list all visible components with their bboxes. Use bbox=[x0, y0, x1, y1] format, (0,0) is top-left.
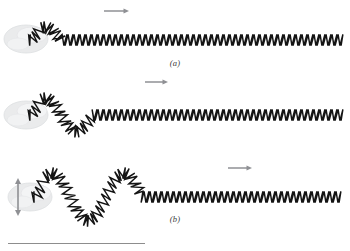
arrow-head bbox=[124, 8, 130, 13]
hand bbox=[4, 25, 48, 53]
panel-c: (c) bbox=[0, 155, 350, 235]
propagation-arrow bbox=[104, 8, 129, 13]
spring-coil-path bbox=[29, 21, 343, 45]
panel-b-illustration bbox=[0, 78, 350, 155]
hand bbox=[8, 183, 52, 211]
arrow-head-up bbox=[15, 178, 21, 184]
arrow-head bbox=[247, 165, 253, 170]
panel-a-label: (a) bbox=[155, 58, 195, 68]
hand-thumb bbox=[11, 196, 33, 208]
spring-coil-path bbox=[28, 92, 343, 137]
propagation-arrow bbox=[228, 165, 252, 170]
hand bbox=[4, 101, 48, 129]
hand-thumb bbox=[7, 114, 29, 126]
arrow-head bbox=[163, 79, 169, 84]
spring-coil bbox=[28, 92, 343, 137]
panel-a: (a) bbox=[0, 0, 350, 78]
horizontal-rule bbox=[8, 243, 145, 244]
arrow-head-down bbox=[15, 210, 21, 216]
wave-figure: (a) (b) (c) bbox=[0, 0, 350, 251]
panel-c-illustration bbox=[0, 155, 350, 235]
panel-b: (b) bbox=[0, 78, 350, 155]
spring-coil-path bbox=[32, 167, 341, 226]
propagation-arrow bbox=[145, 79, 168, 84]
spring-coil bbox=[29, 21, 343, 45]
hand-thumb bbox=[7, 38, 29, 50]
spring-coil bbox=[32, 167, 341, 226]
